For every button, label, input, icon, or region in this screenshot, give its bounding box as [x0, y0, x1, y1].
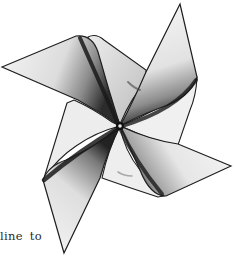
pinwheel-illustration: [0, 0, 234, 257]
center-pin-icon: [116, 122, 124, 130]
caption-text-fragment: line to: [0, 229, 42, 243]
